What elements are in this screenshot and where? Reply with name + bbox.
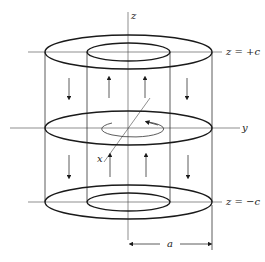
y-axis-label: y (241, 122, 248, 133)
x-axis-label: x (97, 153, 103, 164)
cylinder-diagram: z z = +c y x z = −c a (0, 0, 265, 262)
radius-label: a (167, 238, 173, 249)
top-plane-label: z = +c (225, 46, 260, 57)
x-axis-line (104, 98, 150, 162)
z-axis-label: z (130, 10, 137, 21)
bottom-plane-label: z = −c (225, 196, 260, 207)
